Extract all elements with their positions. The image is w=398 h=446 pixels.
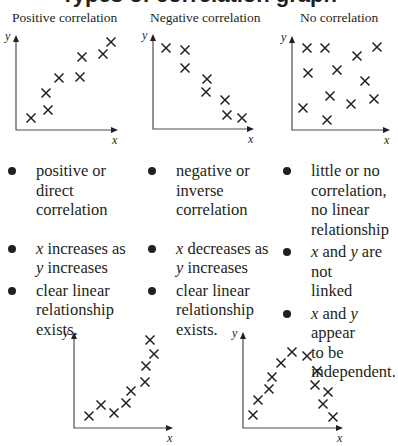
cross-marker-icon [311,381,320,390]
cross-marker-icon [76,73,85,82]
bullet-negative-1: negative orinversecorrelation [146,161,276,220]
x-axis-label: x [111,133,118,147]
cross-marker-icon [373,43,382,52]
x-axis-label: x [336,431,343,445]
cross-marker-icon [326,92,335,101]
cross-marker-icon [268,373,277,382]
x-axis-label: x [383,133,390,147]
bullet-dot-icon [8,245,16,253]
y-arrow-icon [13,35,19,42]
cross-marker-icon [353,52,362,61]
scatter-plot-2: yx [280,30,390,147]
cross-marker-icon [150,350,159,359]
bullet-dot-icon [8,167,16,175]
cross-marker-icon [254,396,263,405]
cross-marker-icon [122,399,131,408]
bullet-dot-icon [283,167,291,175]
cross-marker-icon [202,88,211,97]
cross-marker-icon [303,44,312,53]
axes-lines [292,41,385,130]
cross-marker-icon [249,411,258,420]
cross-marker-icon [319,400,328,409]
cross-marker-icon [181,46,190,55]
cross-marker-icon [223,111,232,120]
bullet-negative-2: x decreases asy increases [146,239,276,278]
cross-marker-icon [323,116,332,125]
scatter-plot-0: yx [4,29,118,147]
cross-marker-icon [181,64,190,73]
bullet-list-negative: negative orinversecorrelation x decrease… [146,161,276,339]
cross-marker-icon [321,44,330,53]
cross-marker-icon [107,38,116,47]
scatter-plot-3: yx [62,326,173,445]
bullet-dot-icon [148,245,156,253]
bullet-list-no-correlation: little or nocorrelation,no linearrelatio… [281,161,398,382]
cross-marker-icon [347,100,356,109]
bullet-positive-3: clear linearrelationshipexists. [6,281,136,340]
cross-marker-icon [221,96,230,105]
cross-marker-icon [203,75,212,84]
cross-marker-icon [42,89,51,98]
bullet-positive-2: x increases asy increases [6,239,136,278]
y-axis-label: y [280,30,287,44]
cross-marker-icon [97,401,106,410]
y-arrow-icon [150,34,156,41]
cross-marker-icon [370,95,379,104]
bullet-dot-icon [8,287,16,295]
bullet-dot-icon [148,167,156,175]
cross-marker-icon [304,69,313,78]
bullet-negative-3: clear linearrelationshipexists. [146,281,276,340]
cross-marker-icon [142,362,151,371]
cross-marker-icon [110,409,119,418]
cross-marker-icon [141,378,150,387]
cross-marker-icon [299,104,308,113]
cross-marker-icon [333,66,342,75]
y-arrow-icon [289,36,295,43]
bullet-positive-1: positive ordirectcorrelation [6,161,136,220]
cross-marker-icon [324,388,333,397]
cross-marker-icon [78,53,87,62]
cross-marker-icon [265,385,274,394]
bullet-none-2: x and y are notlinked [281,242,398,301]
scatter-plot-1: yx [141,28,254,146]
cross-marker-icon [361,77,370,86]
cross-marker-icon [99,50,108,59]
cross-marker-icon [127,387,136,396]
y-axis-label: y [141,28,148,42]
cross-marker-icon [44,106,53,115]
bullet-none-3: x and y appearto beindependent. [281,304,398,382]
bullet-dot-icon [148,287,156,295]
cross-marker-icon [27,114,36,123]
cross-marker-icon [238,114,247,123]
cross-marker-icon [329,413,338,422]
x-axis-label: x [166,431,173,445]
cross-marker-icon [162,44,171,53]
bullet-dot-icon [283,248,291,256]
y-axis-label: y [4,29,11,43]
x-axis-label: x [247,132,254,146]
cross-marker-icon [85,412,94,421]
bullet-list-positive: positive ordirectcorrelation x increases… [6,161,136,339]
bullet-none-1: little or nocorrelation,no linearrelatio… [281,161,398,239]
bullet-dot-icon [283,310,291,318]
cross-marker-icon [55,74,64,83]
axes-lines [153,39,249,129]
